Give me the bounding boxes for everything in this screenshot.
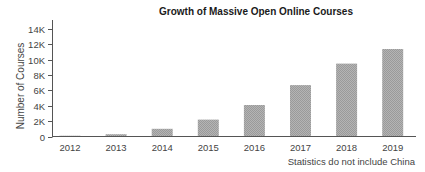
y-tick-label: 4K: [33, 101, 45, 112]
y-axis-label: Number of Courses: [15, 43, 26, 130]
bar-2016: [244, 105, 265, 137]
y-tick-label: 2K: [33, 116, 45, 127]
footnote: Statistics do not include China: [288, 156, 416, 167]
y-tick-label: 8K: [33, 70, 45, 81]
x-tick-label: 2016: [244, 142, 265, 153]
y-tick-label: 14K: [28, 24, 46, 35]
y-tick-label: 10K: [28, 55, 46, 66]
x-tick-label: 2013: [106, 142, 127, 153]
x-tick-label: 2015: [198, 142, 219, 153]
x-tick-label: 2017: [290, 142, 311, 153]
x-tick-label: 2014: [152, 142, 173, 153]
bar-2015: [198, 120, 219, 137]
bar-chart: Growth of Massive Open Online Courses Nu…: [0, 0, 425, 172]
y-tick-label: 6K: [33, 85, 45, 96]
y-axis-ticks: 02K4K6K8K10K12K14K: [28, 24, 52, 143]
x-tick-label: 2012: [59, 142, 80, 153]
x-axis-ticks: 20122013201420152016201720182019: [59, 142, 403, 153]
bar-2014: [152, 129, 173, 137]
bar-2019: [382, 49, 403, 137]
y-tick-label: 0: [40, 132, 45, 143]
bar-2017: [290, 85, 311, 136]
y-tick-label: 12K: [28, 39, 46, 50]
chart-title: Growth of Massive Open Online Courses: [159, 6, 353, 17]
bars: [60, 49, 404, 137]
x-tick-label: 2018: [336, 142, 357, 153]
bar-2018: [336, 64, 357, 137]
x-tick-label: 2019: [382, 142, 403, 153]
